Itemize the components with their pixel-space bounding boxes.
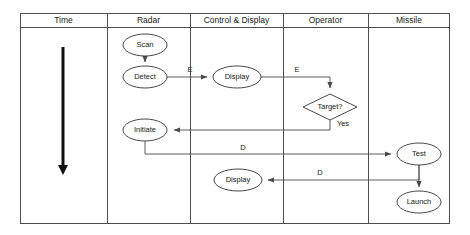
node-display2-label: Display: [226, 175, 251, 184]
node-launch[interactable]: Launch: [397, 191, 441, 213]
lane-header-operator: Operator: [309, 15, 343, 25]
diagram-frame: [21, 14, 450, 224]
node-detect-label: Detect: [134, 72, 157, 81]
node-initiate-label: Initiate: [134, 125, 156, 134]
node-scan-label: Scan: [136, 40, 153, 49]
node-display-control[interactable]: Display: [213, 66, 261, 88]
node-test-label: Test: [412, 149, 427, 158]
diagram-canvas: Time Radar Control & Display Operator Mi…: [0, 0, 470, 235]
node-detect[interactable]: Detect: [123, 66, 167, 88]
node-initiate[interactable]: Initiate: [123, 119, 167, 141]
edge-label-initiate-test: D: [240, 143, 246, 152]
node-display-feedback[interactable]: Display: [214, 169, 262, 191]
node-target-decision[interactable]: Target?: [303, 94, 357, 120]
node-target-label: Target?: [317, 102, 342, 111]
edge-test-to-display2: [268, 165, 419, 180]
swimlane-diagram: Time Radar Control & Display Operator Mi…: [0, 0, 470, 235]
edge-target-to-initiate: [174, 120, 330, 130]
edge-label-detect-display: E: [187, 65, 192, 74]
node-scan[interactable]: Scan: [123, 34, 167, 56]
node-display1-label: Display: [225, 72, 250, 81]
edge-label-target-yes: Yes: [337, 119, 349, 128]
lane-header-time: Time: [54, 15, 73, 25]
edge-label-test-display: D: [317, 168, 323, 177]
lane-header-control-display: Control & Display: [204, 15, 270, 25]
edge-initiate-to-test: [145, 141, 391, 154]
edge-display1-to-target: [261, 77, 330, 88]
node-test[interactable]: Test: [397, 143, 441, 165]
lane-header-missile: Missile: [396, 15, 422, 25]
edge-label-display-target: E: [294, 65, 299, 74]
node-launch-label: Launch: [407, 197, 432, 206]
lane-header-radar: Radar: [137, 15, 160, 25]
